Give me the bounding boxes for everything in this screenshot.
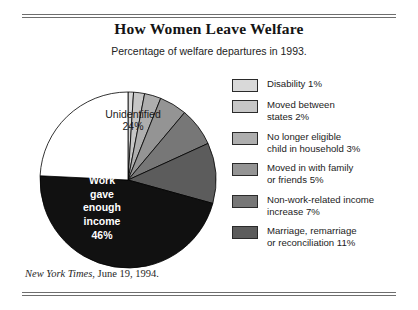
legend-item: Marriage, remarriageor reconciliation 11… bbox=[232, 225, 414, 250]
legend-item: Moved betweenstates 2% bbox=[232, 99, 414, 124]
source-publication: New York Times bbox=[25, 268, 92, 279]
bottom-rule bbox=[22, 292, 396, 296]
legend-label: No longer eligiblechild in household 3% bbox=[267, 131, 360, 156]
welfare-pie-figure: How Women Leave Welfare Percentage of we… bbox=[0, 0, 418, 310]
pie-slice-group bbox=[40, 92, 216, 268]
legend-swatch bbox=[232, 226, 258, 239]
pie-slice bbox=[40, 92, 128, 180]
legend-swatch bbox=[232, 79, 258, 92]
legend-label: Moved betweenstates 2% bbox=[267, 99, 335, 124]
legend-swatch bbox=[232, 195, 258, 208]
legend-swatch bbox=[232, 100, 258, 113]
legend-item: Moved in with familyor friends 5% bbox=[232, 162, 414, 187]
chart-subtitle: Percentage of welfare departures in 1993… bbox=[0, 45, 418, 57]
legend-item: Disability 1% bbox=[232, 78, 414, 92]
source-date: , June 19, 1994. bbox=[92, 268, 159, 279]
legend-item: Non-work-related incomeincrease 7% bbox=[232, 194, 414, 219]
legend-label: Marriage, remarriageor reconciliation 11… bbox=[267, 225, 357, 250]
legend-label: Non-work-related incomeincrease 7% bbox=[267, 194, 374, 219]
pie-chart: Unidentified24% Workgaveenoughincome46% bbox=[38, 90, 218, 270]
legend-label: Moved in with familyor friends 5% bbox=[267, 162, 353, 187]
legend-swatch bbox=[232, 163, 258, 176]
page-title: How Women Leave Welfare bbox=[0, 20, 418, 38]
legend: Disability 1%Moved betweenstates 2%No lo… bbox=[232, 78, 414, 257]
pie-chart-svg bbox=[38, 90, 218, 270]
legend-item: No longer eligiblechild in household 3% bbox=[232, 131, 414, 156]
source-attribution: New York Times, June 19, 1994. bbox=[25, 268, 159, 279]
top-rule bbox=[22, 14, 396, 18]
legend-swatch bbox=[232, 132, 258, 145]
legend-label: Disability 1% bbox=[267, 78, 322, 90]
